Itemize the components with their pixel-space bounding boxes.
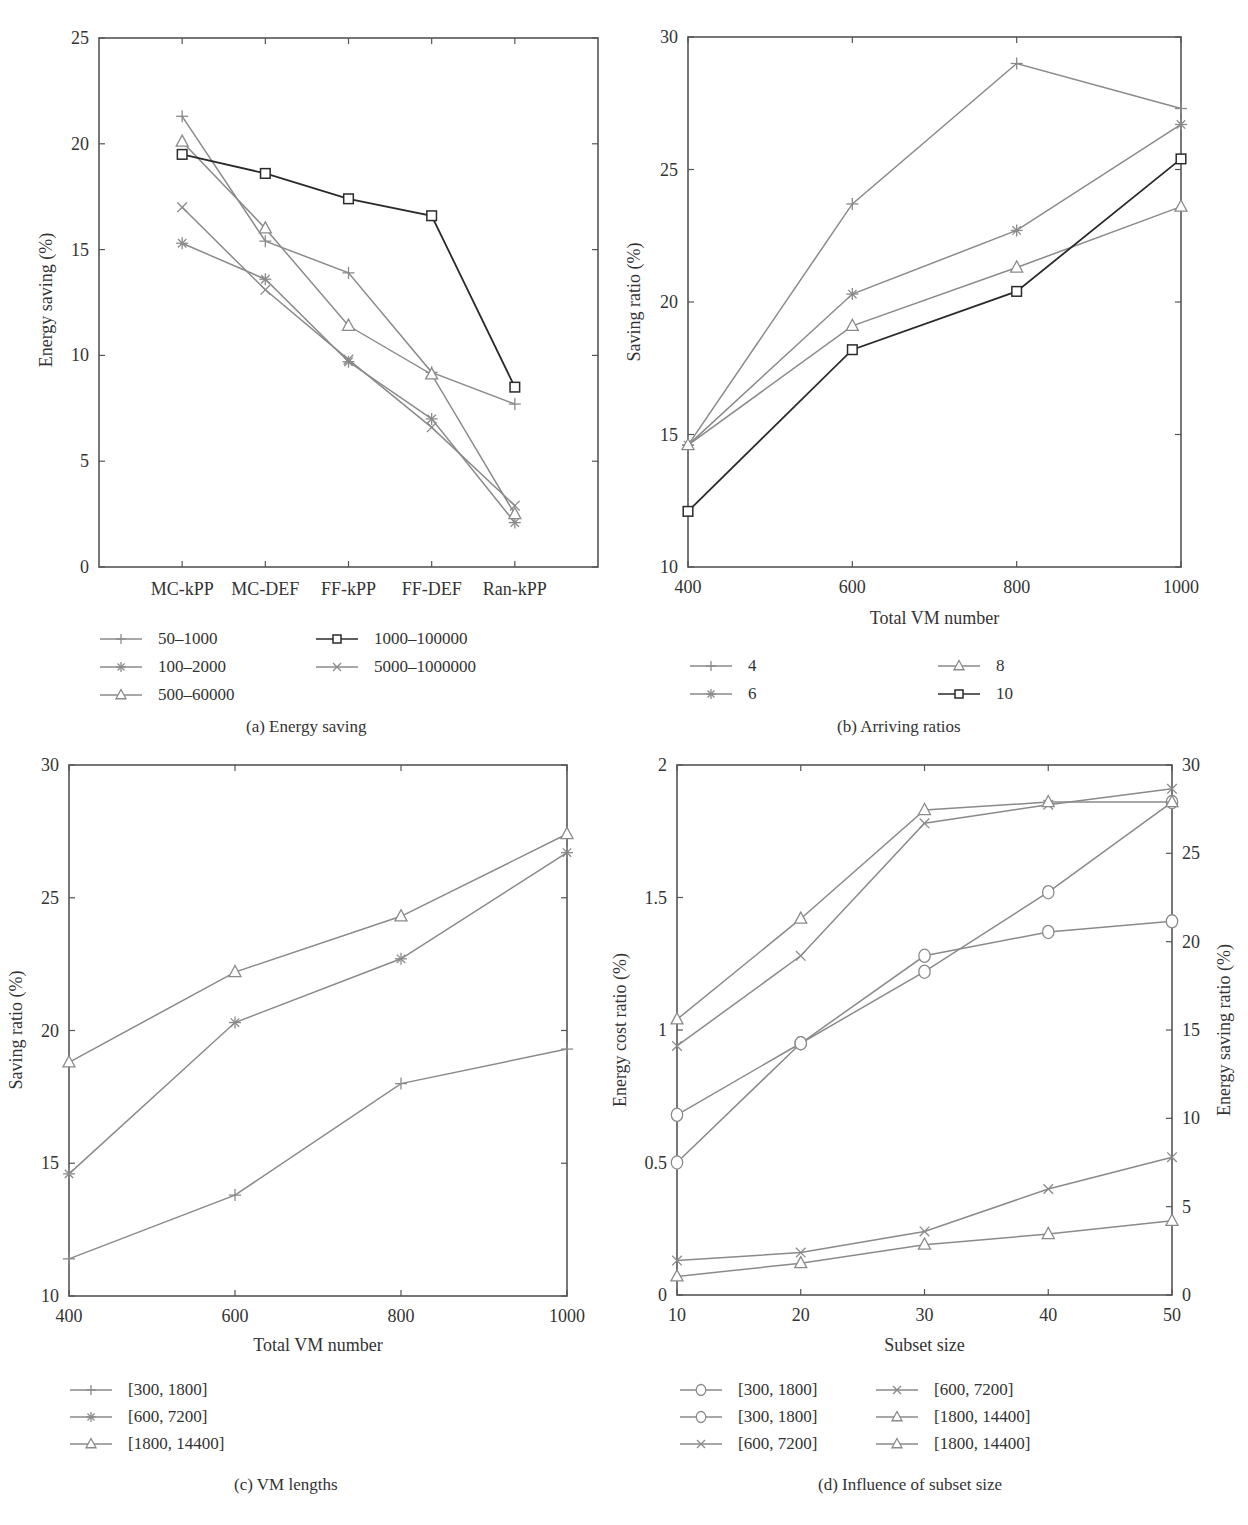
square-marker-icon bbox=[936, 684, 982, 704]
legend-item: [600, 7200] bbox=[874, 1378, 1013, 1402]
legend-item: 4 bbox=[688, 654, 757, 678]
legend-label: 5000–1000000 bbox=[374, 657, 476, 677]
asterisk-marker-icon bbox=[98, 657, 144, 677]
plot-frame bbox=[677, 765, 1172, 1295]
x-axis-label: Total VM number bbox=[253, 1335, 382, 1355]
y-tick-label: 20 bbox=[41, 1021, 59, 1041]
y-axis-label: Energy saving (%) bbox=[36, 233, 57, 368]
x-tick-label: 30 bbox=[916, 1305, 934, 1325]
chart-panel-b: 10152025304006008001000Total VM numberSa… bbox=[620, 0, 1248, 750]
legend-label: 10 bbox=[996, 684, 1013, 704]
series-plus bbox=[63, 1043, 573, 1265]
y-tick-label: 10 bbox=[41, 1286, 59, 1306]
chart-panel-d: 00.511.52051015202530Energy saving ratio… bbox=[600, 750, 1248, 1525]
y-tick-label: 10 bbox=[660, 557, 678, 577]
y-tick-label: 1.5 bbox=[645, 888, 668, 908]
x-marker-icon bbox=[314, 657, 360, 677]
y-tick-label: 30 bbox=[660, 27, 678, 47]
series-x bbox=[672, 784, 1177, 1051]
legend-item: 8 bbox=[936, 654, 1005, 678]
triangle-marker-icon bbox=[98, 685, 144, 705]
legend-label: 6 bbox=[748, 684, 757, 704]
series-triangle bbox=[671, 796, 1178, 1024]
legend-item: 6 bbox=[688, 682, 757, 706]
plus-marker-icon bbox=[98, 629, 144, 649]
y-tick-label: 0 bbox=[80, 557, 89, 577]
y-tick-label: 5 bbox=[80, 451, 89, 471]
triangle-marker-icon bbox=[68, 1434, 114, 1454]
plot-frame bbox=[69, 765, 567, 1296]
y-right-tick-label: 5 bbox=[1182, 1197, 1191, 1217]
x-axis-label: Total VM number bbox=[870, 608, 999, 628]
square-marker-icon bbox=[314, 629, 360, 649]
y-tick-label: 25 bbox=[41, 888, 59, 908]
triangle-marker-icon bbox=[874, 1407, 920, 1427]
x-tick-label: 1000 bbox=[549, 1306, 585, 1326]
chart-a-plot: 0510152025MC-kPPMC-DEFFF-kPPFF-DEFRan-kP… bbox=[0, 0, 620, 610]
x-category-label: FF-kPP bbox=[321, 579, 376, 599]
circle-marker-icon bbox=[678, 1407, 724, 1427]
x-tick-label: 1000 bbox=[1163, 577, 1199, 597]
triangle-marker-icon bbox=[874, 1434, 920, 1454]
x-category-label: Ran-kPP bbox=[483, 579, 547, 599]
legend-item: [600, 7200] bbox=[68, 1405, 207, 1429]
chart-a-caption: (a) Energy saving bbox=[246, 717, 367, 737]
y-tick-label: 15 bbox=[71, 240, 89, 260]
y-axis-label: Saving ratio (%) bbox=[6, 971, 27, 1090]
plot-frame bbox=[99, 38, 598, 567]
legend-label: [600, 7200] bbox=[738, 1434, 817, 1454]
y-tick-label: 0 bbox=[658, 1285, 667, 1305]
y-right-tick-label: 15 bbox=[1182, 1020, 1200, 1040]
legend-label: 8 bbox=[996, 656, 1005, 676]
series-square bbox=[683, 154, 1186, 516]
series-asterisk bbox=[682, 118, 1187, 451]
circle-marker-icon bbox=[678, 1380, 724, 1400]
legend-item: 5000–1000000 bbox=[314, 655, 476, 679]
legend-item: [600, 7200] bbox=[678, 1432, 817, 1456]
x-category-label: MC-kPP bbox=[151, 579, 214, 599]
y-right-tick-label: 25 bbox=[1182, 843, 1200, 863]
plus-marker-icon bbox=[68, 1380, 114, 1400]
chart-c-caption: (c) VM lengths bbox=[234, 1475, 338, 1495]
y-tick-label: 15 bbox=[41, 1153, 59, 1173]
x-category-label: MC-DEF bbox=[231, 579, 299, 599]
chart-b-plot: 10152025304006008001000Total VM numberSa… bbox=[620, 0, 1248, 640]
chart-d-caption: (d) Influence of subset size bbox=[818, 1475, 1002, 1495]
legend-item: [1800, 14400] bbox=[68, 1432, 224, 1456]
y-tick-label: 25 bbox=[71, 28, 89, 48]
y-right-tick-label: 10 bbox=[1182, 1108, 1200, 1128]
legend-item: [300, 1800] bbox=[678, 1405, 817, 1429]
y-tick-label: 25 bbox=[660, 160, 678, 180]
x-tick-label: 600 bbox=[222, 1306, 249, 1326]
legend-item: [1800, 14400] bbox=[874, 1432, 1030, 1456]
legend-label: [600, 7200] bbox=[934, 1380, 1013, 1400]
legend-label: [300, 1800] bbox=[738, 1380, 817, 1400]
chart-c-plot: 10152025304006008001000Total VM numberSa… bbox=[0, 750, 620, 1370]
asterisk-marker-icon bbox=[688, 684, 734, 704]
legend-item: [300, 1800] bbox=[678, 1378, 817, 1402]
asterisk-marker-icon bbox=[68, 1407, 114, 1427]
x-marker-icon bbox=[678, 1434, 724, 1454]
series-triangle bbox=[63, 827, 573, 1066]
x-tick-label: 20 bbox=[792, 1305, 810, 1325]
x-tick-label: 10 bbox=[668, 1305, 686, 1325]
y-tick-label: 15 bbox=[660, 425, 678, 445]
y-right-tick-label: 20 bbox=[1182, 932, 1200, 952]
series-circle bbox=[671, 915, 1177, 1122]
x-tick-label: 800 bbox=[1003, 577, 1030, 597]
x-tick-label: 600 bbox=[839, 577, 866, 597]
legend-label: 1000–100000 bbox=[374, 629, 468, 649]
y-axis-label: Energy cost ratio (%) bbox=[610, 953, 631, 1107]
x-tick-label: 400 bbox=[675, 577, 702, 597]
y-tick-label: 20 bbox=[71, 134, 89, 154]
legend-label: 50–1000 bbox=[158, 629, 218, 649]
series-triangle bbox=[682, 200, 1187, 450]
y-axis-label: Saving ratio (%) bbox=[624, 243, 645, 362]
chart-b-caption: (b) Arriving ratios bbox=[837, 717, 961, 737]
legend-item: 500–60000 bbox=[98, 683, 235, 707]
y-tick-label: 20 bbox=[660, 292, 678, 312]
legend-label: [300, 1800] bbox=[128, 1380, 207, 1400]
y-tick-label: 0.5 bbox=[645, 1153, 668, 1173]
triangle-marker-icon bbox=[936, 656, 982, 676]
legend-item: [1800, 14400] bbox=[874, 1405, 1030, 1429]
